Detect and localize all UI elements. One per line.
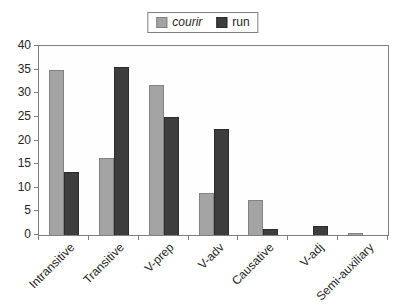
bar-courir-v-prep — [149, 85, 164, 235]
legend-swatch-run — [216, 17, 227, 28]
x-axis-tick — [188, 236, 189, 240]
x-category-label: Causative — [230, 241, 277, 288]
bar-courir-intransitive — [49, 70, 64, 235]
y-axis-tick — [34, 234, 38, 235]
bar-run-transitive — [114, 67, 129, 235]
y-tick-label: 15 — [0, 156, 31, 170]
bar-run-v-adj — [313, 226, 328, 235]
y-axis-tick — [34, 163, 38, 164]
x-axis-tick — [387, 236, 388, 240]
x-category-label: V-adj — [298, 241, 327, 270]
legend-label-run: run — [232, 16, 249, 29]
y-axis-tick — [34, 45, 38, 46]
chart-legend: courir run — [147, 12, 258, 33]
y-axis-tick — [34, 210, 38, 211]
bar-chart: courir run 0510152025303540IntransitiveT… — [0, 0, 406, 305]
y-axis-tick — [34, 69, 38, 70]
y-axis-tick — [34, 116, 38, 117]
bar-run-causative — [263, 229, 278, 235]
y-tick-label: 0 — [0, 227, 31, 241]
bar-courir-v-adv — [199, 193, 214, 235]
bar-courir-semi-auxiliary — [348, 233, 363, 235]
y-axis-tick — [34, 187, 38, 188]
y-axis-tick — [34, 92, 38, 93]
y-tick-label: 25 — [0, 109, 31, 123]
x-category-label: V-adv — [196, 241, 227, 272]
x-axis-tick — [88, 236, 89, 240]
y-axis-tick — [34, 140, 38, 141]
x-axis-tick — [337, 236, 338, 240]
bar-run-v-adv — [214, 129, 229, 235]
bar-courir-causative — [248, 200, 263, 235]
y-tick-label: 30 — [0, 85, 31, 99]
bar-run-v-prep — [164, 117, 179, 235]
x-axis-tick — [138, 236, 139, 240]
y-tick-label: 35 — [0, 62, 31, 76]
x-category-label: Intransitive — [27, 241, 77, 291]
bar-run-intransitive — [64, 172, 79, 235]
plot-area — [38, 45, 389, 236]
legend-label-courir: courir — [172, 16, 202, 29]
x-axis-tick — [38, 236, 39, 240]
y-tick-label: 10 — [0, 180, 31, 194]
bar-courir-transitive — [99, 158, 114, 235]
y-tick-label: 40 — [0, 38, 31, 52]
x-axis-tick — [287, 236, 288, 240]
x-category-label: Transitive — [81, 241, 127, 287]
y-tick-label: 5 — [0, 203, 31, 217]
x-axis-tick — [237, 236, 238, 240]
legend-swatch-courir — [156, 17, 167, 28]
x-category-label: V-prep — [143, 241, 177, 275]
y-tick-label: 20 — [0, 133, 31, 147]
